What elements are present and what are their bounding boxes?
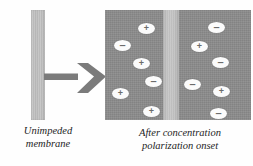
anion-ion: – — [145, 76, 162, 87]
anion-ion: – — [184, 79, 201, 90]
left-caption-line-1: Unimpeded — [0, 124, 96, 137]
cation-ion: + — [138, 23, 155, 34]
left-caption-line-2: membrane — [0, 137, 96, 150]
right-caption-line-2: polarization onset — [112, 139, 248, 152]
cation-ion: + — [133, 58, 150, 69]
right-panel-caption: After concentration polarization onset — [112, 126, 248, 152]
concentration-polarization-figure: Unimpeded membrane +–+–++–+––+– After co… — [0, 0, 253, 166]
right-caption-line-1: After concentration — [112, 126, 248, 139]
cation-ion: + — [191, 41, 208, 52]
right-panel: +–+–++–+––+– — [105, 10, 251, 120]
anion-ion: – — [208, 22, 225, 33]
polarized-membrane-bar — [163, 10, 179, 120]
cation-ion: + — [143, 106, 160, 117]
cation-ion: + — [112, 88, 129, 99]
left-panel-caption: Unimpeded membrane — [0, 124, 96, 150]
anion-ion: – — [212, 57, 229, 68]
unimpeded-membrane-bar — [31, 10, 45, 120]
cation-ion: + — [213, 86, 230, 97]
transition-arrow — [44, 60, 108, 96]
anion-ion: – — [114, 40, 131, 51]
anion-ion: – — [210, 108, 227, 119]
